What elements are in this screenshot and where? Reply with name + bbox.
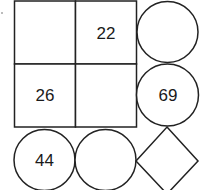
square-grid: 22 26 [15, 1, 137, 127]
grid-cell-top-left [15, 1, 76, 64]
stray-dot [1, 12, 3, 14]
right-circles: 69 [137, 2, 199, 127]
puzzle-diagram: 22 26 69 44 [0, 0, 201, 190]
diamond [136, 127, 198, 190]
circle-value: 69 [159, 86, 178, 105]
diamond-shape [136, 127, 198, 190]
circle-bottom-center [75, 130, 136, 191]
grid-cell-value: 26 [36, 86, 55, 105]
bottom-circles: 44 [14, 130, 136, 191]
circle-value: 44 [35, 151, 54, 170]
circle-right-top [137, 2, 198, 63]
grid-cell-bottom-right [76, 64, 137, 127]
grid-cell-value: 22 [97, 24, 116, 43]
